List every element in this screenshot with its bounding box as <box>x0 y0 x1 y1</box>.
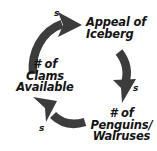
polarity-label-clams-to-iceberg: s <box>54 9 59 18</box>
node-penguins-walruses-line3: Walruses <box>86 131 157 143</box>
node-penguins-walruses: # of Penguins/ Walruses <box>86 108 157 143</box>
node-appeal-of-iceberg: Appeal of Iceberg <box>86 17 146 40</box>
node-clams-available-line3: Available <box>12 82 78 94</box>
node-clams-available: # of Clams Available <box>12 59 78 94</box>
causal-loop-diagram: Appeal of Iceberg # of Clams Available #… <box>0 0 157 151</box>
node-appeal-of-iceberg-line2: Iceberg <box>86 29 146 41</box>
arrow-iceberg-to-penguins <box>113 52 136 103</box>
arrow-penguins-to-clams <box>33 97 85 124</box>
polarity-label-penguins-to-clams: s <box>39 124 44 133</box>
polarity-label-iceberg-to-penguins: s <box>133 84 138 93</box>
